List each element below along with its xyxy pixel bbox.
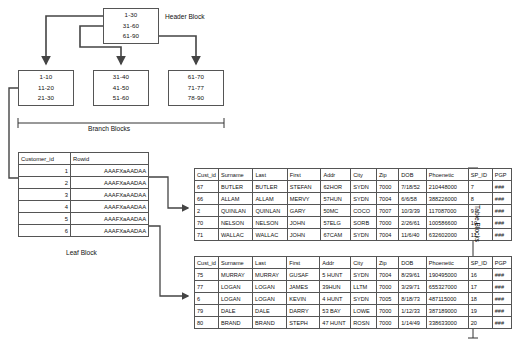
table-block-cell-last: BRAND [253, 317, 287, 329]
table-block-cell-zip: 7000 [376, 305, 398, 317]
leaf-block-body: 1AAAFXaAADAA2AAAFXaAADAA3AAAFXaAADAA4AAA… [19, 165, 149, 237]
header-block-line-2: 31-60 [123, 21, 139, 32]
table-block-col-city: City [351, 257, 377, 269]
table-block-cell-city: SORB [351, 217, 377, 229]
table-block-cell-dob: 1/12/33 [399, 305, 427, 317]
leaf-block-row: 2AAAFXaAADAA [19, 177, 149, 189]
table-block-cell-zip: 7005 [376, 293, 398, 305]
edge-leaf2-to-table-row [148, 177, 188, 208]
leaf-cell-rowid: AAAFXaAADAA [71, 213, 149, 225]
table-block-row: 6LOGANLOGANKEVIN4 HUNTSYDN70058/18/73487… [195, 293, 512, 305]
table-block-cell-phoenetic: 210448000 [426, 181, 468, 193]
leaf-block-row: 1AAAFXaAADAA [19, 165, 149, 177]
table-block-cell-cust-id: 2 [195, 205, 219, 217]
header-block[interactable]: 1-30 31-60 61-90 [103, 8, 159, 44]
table-block-1: Cust_idSurnameLastFirstAddrCityZipDOBPho… [194, 168, 512, 241]
table-block-cell-addr: 4 HUNT [320, 293, 351, 305]
table-block-col-cust-id: Cust_id [195, 257, 219, 269]
table-block-cell-zip: 7004 [376, 229, 398, 241]
edge-header-to-branch3 [159, 36, 196, 64]
branch-block-2-line-2: 41-50 [113, 83, 129, 94]
table-block-2-header-row: Cust_idSurnameLastFirstAddrCityZipDOBPho… [195, 257, 512, 269]
branch-block-1-line-1: 1-10 [40, 72, 53, 83]
table-block-cell-pgp: ### [492, 317, 511, 329]
header-block-line-3: 61-90 [123, 31, 139, 42]
branch-block-2[interactable]: 31-40 41-50 51-60 [93, 70, 149, 106]
leaf-cell-rowid: AAAFXaAADAA [71, 177, 149, 189]
branch-block-2-line-3: 51-60 [113, 93, 129, 104]
table-block-cell-phoenetic: 655327000 [426, 281, 468, 293]
table-block-cell-addr: 50MC [321, 205, 351, 217]
table-block-cell-pgp: ### [492, 205, 511, 217]
table-block-cell-last: MURRAY [253, 269, 287, 281]
table-block-row: 75MURRAYMURRAYGUSAF5 HUNTSYDN70048/29/61… [195, 269, 512, 281]
table-block-cell-phoenetic: 338633000 [426, 317, 468, 329]
table-block-2: Cust_idSurnameLastFirstAddrCityZipDOBPho… [194, 256, 512, 329]
leaf-block-table: Customer_id Rowid 1AAAFXaAADAA2AAAFXaAAD… [18, 152, 149, 237]
table-block-cell-sp-id: 16 [468, 269, 492, 281]
table-block-cell-addr: 47 HUNT [320, 317, 351, 329]
table-block-cell-zip: 7000 [376, 217, 398, 229]
branch-block-1[interactable]: 1-10 11-20 21-30 [18, 70, 74, 106]
table-block-cell-phoenetic: 387189000 [426, 305, 468, 317]
table-block-cell-cust-id: 70 [195, 217, 219, 229]
table-block-cell-surname: QUINLAN [218, 205, 252, 217]
table-block-col-pgp: PGP [492, 257, 511, 269]
table-block-cell-sp-id: 20 [468, 317, 492, 329]
table-block-cell-addr: 5 HUNT [320, 269, 351, 281]
table-block-cell-surname: LOGAN [218, 281, 252, 293]
table-block-cell-first: GUSAF [287, 269, 320, 281]
table-block-col-first: First [287, 257, 320, 269]
table-block-cell-surname: ALLAM [218, 193, 252, 205]
table-block-cell-surname: WALLAC [218, 229, 252, 241]
table-block-cell-city: ROSN [351, 317, 377, 329]
leaf-col-rowid: Rowid [71, 153, 149, 165]
table-block-cell-surname: NELSON [218, 217, 252, 229]
table-block-col-sp-id: SP_ID [468, 169, 492, 181]
table-block-cell-first: JAMES [287, 281, 320, 293]
table-block-cell-last: WALLAC [253, 229, 287, 241]
branch-block-3-line-2: 71-77 [188, 83, 204, 94]
table-block-cell-pgp: ### [492, 305, 511, 317]
table-block-cell-surname: BUTLER [218, 181, 252, 193]
table-block-cell-dob: 1/14/49 [399, 317, 427, 329]
table-block-cell-first: DARRY [287, 305, 320, 317]
diagram-canvas: 1-30 31-60 61-90 Header Block 1-10 11-20… [0, 0, 512, 345]
leaf-block-row: 4AAAFXaAADAA [19, 201, 149, 213]
table-block-cell-dob: 11/6/40 [399, 229, 427, 241]
table-block-col-last: Last [253, 169, 287, 181]
table-block-cell-cust-id: 67 [195, 181, 219, 193]
table-block-cell-dob: 2/26/61 [399, 217, 427, 229]
table-block-cell-sp-id: 7 [468, 181, 492, 193]
table-block-cell-dob: 7/18/52 [399, 181, 427, 193]
table-block-col-addr: Addr [321, 169, 351, 181]
table-block-cell-last: NELSON [253, 217, 287, 229]
table-block-cell-cust-id: 75 [195, 269, 219, 281]
table-block-cell-phoenetic: 117087000 [426, 205, 468, 217]
branch-block-3[interactable]: 61-70 71-77 78-90 [168, 70, 224, 106]
leaf-block-row: 5AAAFXaAADAA [19, 213, 149, 225]
table-block-cell-city: LOWE [351, 305, 377, 317]
table-block-cell-city: LLTM [351, 281, 377, 293]
table-block-row: 77LOGANLOGANJAMES39HUNLLTM70003/29/71655… [195, 281, 512, 293]
table-block-col-sp-id: SP_ID [468, 257, 492, 269]
branch-blocks-label: Branch Blocks [88, 125, 130, 132]
table-block-cell-addr: 53 BAY [320, 305, 351, 317]
table-block-row: 70NELSONNELSONJOHN57ELGSORB70002/26/6110… [195, 217, 512, 229]
table-block-cell-city: SYDN [351, 269, 377, 281]
leaf-cell-customer-id: 4 [19, 201, 71, 213]
table-blocks-label: Table Blocks [474, 205, 481, 242]
table-block-cell-zip: 7004 [376, 269, 398, 281]
table-block-cell-pgp: ### [492, 229, 511, 241]
table-block-col-zip: Zip [376, 169, 398, 181]
edge-header-to-branch1 [46, 16, 103, 64]
table-block-cell-surname: MURRAY [218, 269, 252, 281]
table-block-col-city: City [351, 169, 377, 181]
table-block-cell-first: STEFAN [287, 181, 321, 193]
table-block-cell-first: MERVY [287, 193, 321, 205]
table-block-cell-dob: 10/3/39 [399, 205, 427, 217]
table-block-col-surname: Surname [218, 169, 252, 181]
table-block-cell-addr: 39HUN [320, 281, 351, 293]
table-block-col-addr: Addr [320, 257, 351, 269]
leaf-cell-customer-id: 3 [19, 189, 71, 201]
